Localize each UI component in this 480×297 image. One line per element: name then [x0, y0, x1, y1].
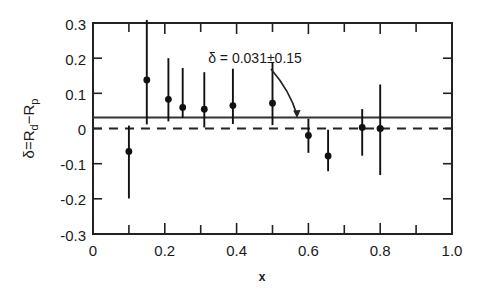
x-tick-label-0: 0	[89, 242, 97, 259]
y-tick-label-0.2: 0.2	[65, 51, 86, 68]
y-tick-label-0.1: 0.1	[65, 86, 86, 103]
y-title-minus: −	[20, 115, 37, 124]
scatter-plot-svg: δ = 0.031±0.15 0.3 0.2 0.1 0 -0.1 -0.2 -…	[0, 0, 480, 297]
x-tick-label-0.8: 0.8	[370, 242, 391, 259]
figure-container: δ = 0.031±0.15 0.3 0.2 0.1 0 -0.1 -0.2 -…	[0, 0, 480, 297]
data-marker	[269, 100, 276, 107]
x-tick-label-0.4: 0.4	[226, 242, 247, 259]
y-axis-title: δ=Rd−Rp	[20, 99, 40, 159]
y-tick-label-neg0.1: -0.1	[60, 156, 86, 173]
data-point-group	[305, 119, 312, 153]
fit-annotation-label: δ = 0.031±0.15	[208, 50, 302, 66]
x-tick-label-0.6: 0.6	[298, 242, 319, 259]
x-tick-labels: 0 0.2 0.4 0.6 0.8 1.0	[89, 242, 463, 259]
data-point-group	[377, 85, 384, 176]
y-title-rp: R	[20, 105, 37, 116]
y-title-delta: δ	[20, 150, 37, 158]
y-tick-labels: 0.3 0.2 0.1 0 -0.1 -0.2 -0.3	[60, 16, 86, 244]
data-marker	[179, 104, 186, 111]
y-title-rp-subscript: p	[28, 99, 40, 105]
data-point-group	[125, 126, 132, 199]
svg-text:δ=Rd−Rp: δ=Rd−Rp	[20, 99, 40, 159]
data-marker	[325, 153, 332, 160]
data-point-group	[359, 109, 366, 156]
x-axis-ticks-top	[129, 23, 416, 34]
data-point-group	[325, 130, 332, 171]
data-marker	[377, 125, 384, 132]
y-title-rd: R	[20, 130, 37, 141]
data-marker	[143, 77, 150, 84]
data-point-group	[143, 20, 150, 125]
y-title-equals: =	[20, 141, 37, 150]
data-marker	[230, 102, 237, 109]
data-marker	[165, 96, 172, 103]
y-tick-label-0.3: 0.3	[65, 16, 86, 33]
data-marker	[125, 148, 132, 155]
data-point-group	[201, 72, 208, 127]
x-axis-title: x	[259, 270, 266, 284]
y-tick-label-neg0.2: -0.2	[60, 191, 86, 208]
data-marker	[305, 132, 312, 139]
data-marker	[201, 106, 208, 113]
data-point-group	[165, 58, 172, 121]
data-marker	[359, 124, 366, 131]
x-axis-ticks-bottom	[129, 223, 416, 234]
data-point-group	[179, 68, 186, 118]
x-tick-label-0.2: 0.2	[154, 242, 175, 259]
y-tick-label-neg0.3: -0.3	[60, 227, 86, 244]
data-series	[125, 20, 383, 199]
data-point-group	[230, 69, 237, 124]
y-tick-label-0: 0	[78, 121, 86, 138]
annotation-arrow	[271, 69, 297, 115]
x-tick-label-1.0: 1.0	[442, 242, 463, 259]
